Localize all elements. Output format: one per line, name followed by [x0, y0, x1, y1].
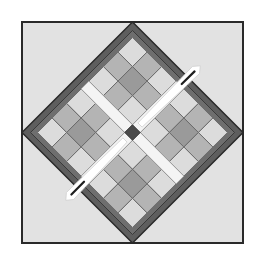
quilt-illustration: [0, 0, 262, 268]
quilt-block-graphic: [0, 0, 262, 268]
